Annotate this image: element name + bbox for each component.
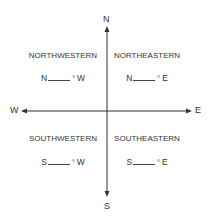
east-label: E — [195, 105, 201, 115]
north-label: N — [103, 14, 110, 24]
southeast-prefix: S — [126, 157, 132, 167]
west-arrowhead-icon — [21, 109, 27, 114]
compass-axes — [0, 0, 211, 222]
northeast-title: NORTHEASTERN — [102, 51, 192, 60]
northwest-degree-blank[interactable] — [48, 73, 70, 81]
southeast-title: SOUTHEASTERN — [102, 134, 192, 143]
southeast-degree-blank[interactable] — [133, 157, 155, 165]
northwest-formula: N°W — [18, 73, 108, 83]
northeast-prefix: N — [126, 73, 132, 83]
southwest-degree-blank[interactable] — [48, 157, 70, 165]
southwest-formula: S°W — [18, 157, 108, 167]
southeast-degree-symbol: ° — [157, 159, 160, 166]
southwest-degree-symbol: ° — [72, 159, 75, 166]
north-arrowhead-icon — [105, 26, 110, 32]
west-label: W — [10, 105, 19, 115]
south-arrowhead-icon — [105, 191, 110, 197]
northwest-title: NORTHWESTERN — [18, 51, 108, 60]
northeast-formula: N°E — [102, 73, 192, 83]
northwest-degree-symbol: ° — [72, 75, 75, 82]
northwest-prefix: N — [41, 73, 47, 83]
northeast-degree-blank[interactable] — [133, 73, 155, 81]
northeast-degree-symbol: ° — [157, 75, 160, 82]
northeast-suffix: E — [162, 73, 168, 83]
southeast-formula: S°E — [102, 157, 192, 167]
southeast-suffix: E — [162, 157, 168, 167]
southwest-suffix: W — [77, 157, 85, 167]
southwest-prefix: S — [41, 157, 47, 167]
southwest-title: SOUTHWESTERN — [18, 134, 108, 143]
south-label: S — [104, 201, 110, 211]
northwest-suffix: W — [77, 73, 85, 83]
east-arrowhead-icon — [186, 109, 192, 114]
